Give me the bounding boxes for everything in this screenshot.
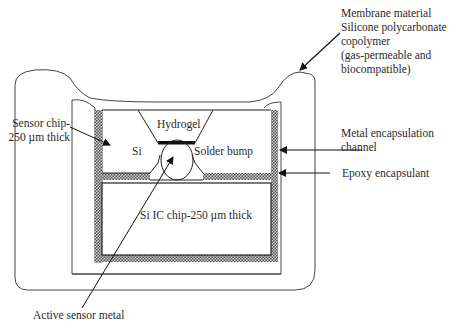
membrane-label-line: (gas-permeable and [341,48,447,62]
hydrogel-label: Hydrogel [157,118,200,130]
sensor-chip-leader [70,127,110,145]
membrane-label-line: Membrane material [341,6,447,20]
membrane-leader [300,33,340,70]
metal-channel-label: Metal encapsulation channel [341,126,434,154]
membrane-label: Membrane material Silicone polycarbonate… [341,6,447,76]
active-metal-label: Active sensor metal [33,308,124,322]
active-sensor-metal [158,141,195,145]
membrane-label-line: biocompatible) [341,62,447,76]
metal-encapsulation-right [203,173,271,180]
si-label: Si [132,145,142,157]
sensor-chip-label: Sensor chip- 250 µm thick [2,116,70,144]
metal-encapsulation-left [102,173,150,180]
epoxy-label: Epoxy encapsulant [342,166,429,180]
sensor-chip-label-line: Sensor chip- [2,116,70,130]
solder-bump-label: Solder bump [194,145,253,157]
solder-bump [161,140,193,180]
membrane-label-line: Silicone polycarbonate [341,20,447,34]
metal-channel-label-line: Metal encapsulation [341,126,434,140]
membrane-label-line: copolymer [341,34,447,48]
metal-channel-label-line: channel [341,140,434,154]
sensor-chip-label-line: 250 µm thick [2,130,70,144]
ic-chip-label: Si IC chip-250 µm thick [140,209,252,221]
